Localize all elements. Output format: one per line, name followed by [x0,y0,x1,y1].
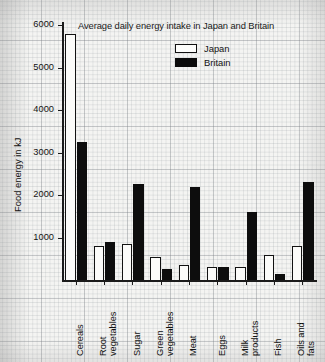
y-tick-label: 6000 [18,19,54,29]
y-axis-line [62,22,64,281]
y-tick-label: 5000 [18,62,54,72]
x-tick-mark [104,281,105,285]
x-tick-label: Sugar [132,331,142,356]
x-tick-label-line: Oils and [296,322,306,356]
x-tick-mark [217,281,218,285]
x-tick-label-line: Root [98,312,108,356]
legend-swatch-britain [175,58,197,67]
y-tick-label: 4000 [18,104,54,114]
y-tick-label: 1000 [18,232,54,242]
bar-japan [207,267,217,281]
x-tick-label: Meat [188,336,198,356]
bar-japan [65,34,75,282]
x-tick-label-line: Green [155,312,165,356]
x-tick-label-line: fats [307,322,317,356]
bar-japan [150,257,160,281]
bar-japan [94,246,104,281]
bar-britain [190,187,200,282]
bar-britain [77,142,87,281]
x-tick-label: Oils andfats [296,322,317,356]
bar-britain [247,212,257,281]
legend-label-japan: Japan [204,43,230,54]
chart-title: Average daily energy intake in Japan and… [78,20,274,31]
x-tick-label: Greenvegetables [155,312,176,356]
legend-label-britain: Britain [204,57,231,68]
y-tick-label: 3000 [18,147,54,157]
x-tick-mark [76,281,77,285]
x-tick-label-line: products [250,321,260,356]
bar-japan [122,244,132,281]
x-tick-label-line: vegetables [165,312,175,356]
x-tick-label: Fish [273,339,283,356]
x-tick-label-line: Meat [188,336,198,356]
y-tick-label: 2000 [18,189,54,199]
bar-britain [303,182,313,281]
x-tick-label-line: Sugar [132,331,142,356]
bar-britain [218,267,228,281]
bar-britain [133,184,143,281]
bar-chart: Average daily energy intake in Japan and… [0,0,325,362]
bar-britain [105,242,115,281]
x-tick-mark [161,281,162,285]
x-tick-mark [302,281,303,285]
x-tick-label: Eggs [217,335,227,356]
x-tick-mark [246,281,247,285]
x-tick-label: Milkproducts [240,321,261,356]
x-tick-mark [274,281,275,285]
x-tick-label-line: Eggs [217,335,227,356]
bar-japan [179,265,189,281]
x-tick-mark [132,281,133,285]
x-tick-label-line: Cereals [75,324,85,356]
bar-japan [264,255,274,282]
legend-swatch-japan [175,44,197,53]
x-axis-line [62,280,317,282]
x-tick-label-line: Fish [273,339,283,356]
x-tick-mark [189,281,190,285]
bar-japan [235,267,245,281]
x-tick-label-line: Milk [240,321,250,356]
x-tick-label: Rootvegetables [98,312,119,356]
x-tick-label-line: vegetables [109,312,119,356]
bar-japan [292,246,302,281]
x-tick-label: Cereals [75,324,85,356]
